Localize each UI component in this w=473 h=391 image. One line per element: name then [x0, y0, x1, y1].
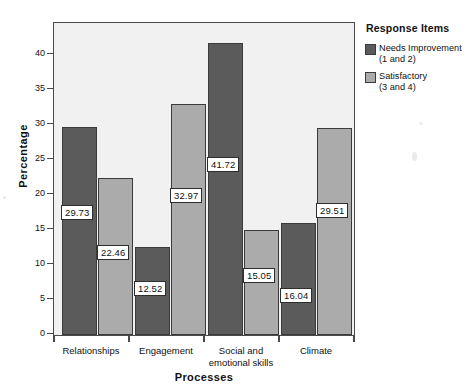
value-label-engagement-satisfactory: 32.97 [170, 188, 202, 203]
y-axis-title: Percentage [17, 96, 29, 216]
x-tick-mark [53, 336, 55, 342]
scan-speckle [412, 152, 417, 161]
x-category-climate: Climate [278, 345, 354, 357]
legend-item-satisfactory: Satisfactory (3 and 4) [365, 71, 473, 92]
y-tick-10: 10 [0, 258, 53, 269]
x-category-line1: Climate [278, 345, 354, 357]
y-tick-40: 40 [0, 48, 53, 59]
bar-relationships-needs [62, 127, 97, 335]
legend-item-needs-improvement: Needs Improvement (1 and 2) [365, 43, 473, 64]
plot-area: 29.73 22.46 12.52 32.97 41.72 15.05 16.0… [53, 22, 355, 336]
legend-item-line2: (1 and 2) [379, 54, 416, 64]
x-category-relationships: Relationships [53, 345, 129, 357]
legend-item-line1: Needs Improvement [379, 43, 462, 53]
legend-item-label: Needs Improvement (1 and 2) [379, 43, 462, 64]
bar-engagement-satisfactory [171, 104, 206, 335]
legend-item-line1: Satisfactory [379, 71, 427, 81]
bar-climate-needs [281, 223, 316, 335]
value-label-relationships-satisfactory: 22.46 [97, 245, 129, 260]
bar-climate-satisfactory [317, 128, 352, 335]
legend-swatch-icon [365, 72, 376, 83]
y-tick-35: 35 [0, 83, 53, 94]
y-tick-label: 10 [35, 258, 45, 269]
x-tick-mark [203, 336, 205, 342]
legend-item-line2: (3 and 4) [379, 82, 416, 92]
x-category-line2: emotional skills [203, 357, 279, 369]
x-tick-mark [353, 336, 355, 342]
x-category-line1: Engagement [128, 345, 204, 357]
y-tick-label: 35 [35, 83, 45, 94]
y-tick-label: 40 [35, 48, 45, 59]
x-tick-mark [278, 336, 280, 342]
y-tick-label: 0 [40, 328, 45, 339]
x-axis-title: Processes [53, 371, 355, 383]
value-label-engagement-needs: 12.52 [134, 281, 166, 296]
x-category-line1: Social and [203, 345, 279, 357]
y-tick-5: 5 [0, 293, 53, 304]
value-label-social-satisfactory: 15.05 [243, 268, 275, 283]
bar-chart: 40 35 30 25 20 15 10 5 [0, 0, 473, 391]
scan-speckle [419, 122, 423, 125]
scan-speckle [3, 196, 6, 199]
x-category-engagement: Engagement [128, 345, 204, 357]
x-category-social-emotional-skills: Social and emotional skills [203, 345, 279, 368]
legend-swatch-icon [365, 44, 376, 55]
y-tick-label: 15 [35, 223, 45, 234]
value-label-relationships-needs: 29.73 [61, 205, 93, 220]
x-category-line1: Relationships [53, 345, 129, 357]
y-axis: 40 35 30 25 20 15 10 5 [0, 0, 53, 391]
value-label-climate-satisfactory: 29.51 [316, 203, 348, 218]
x-tick-mark [128, 336, 130, 342]
legend-item-label: Satisfactory (3 and 4) [379, 71, 427, 92]
y-tick-15: 15 [0, 223, 53, 234]
y-tick-0: 0 [0, 328, 53, 339]
bar-social-needs [208, 43, 243, 335]
y-tick-label: 20 [35, 188, 45, 199]
y-tick-label: 5 [40, 293, 45, 304]
value-label-climate-needs: 16.04 [280, 288, 312, 303]
legend: Response Items Needs Improvement (1 and … [365, 22, 473, 99]
y-tick-label: 25 [35, 153, 45, 164]
y-tick-label: 30 [35, 118, 45, 129]
value-label-social-needs: 41.72 [207, 157, 239, 172]
legend-title: Response Items [366, 22, 473, 34]
